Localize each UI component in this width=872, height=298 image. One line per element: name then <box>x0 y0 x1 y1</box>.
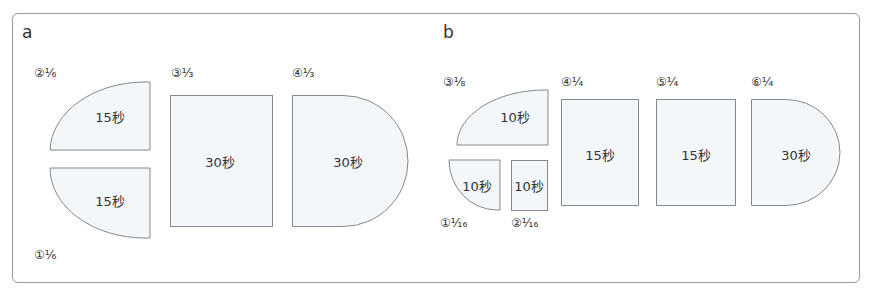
piece-b4-time: 15秒 <box>570 145 630 164</box>
piece-a4-time: 30秒 <box>318 152 378 171</box>
piece-b2-label: ②¹⁄₁₆ <box>511 216 538 230</box>
piece-b2-time: 10秒 <box>506 176 552 195</box>
piece-a3-label: ③¹⁄₃ <box>171 66 193 80</box>
panel-a-letter: a <box>22 22 32 42</box>
piece-b1-label: ①¹⁄₁₆ <box>440 216 467 230</box>
piece-b5-label: ⑤¹⁄₄ <box>656 75 678 89</box>
shapes-canvas <box>0 0 872 298</box>
piece-a1-label: ①¹⁄₆ <box>34 248 56 262</box>
piece-b6-label: ⑥¹⁄₄ <box>751 75 773 89</box>
piece-b6-time: 30秒 <box>766 145 826 164</box>
piece-b5-time: 15秒 <box>666 145 726 164</box>
piece-a2-label: ②¹⁄₆ <box>34 66 56 80</box>
piece-b3-time: 10秒 <box>485 107 545 126</box>
piece-a2-time: 15秒 <box>80 107 140 126</box>
piece-a4-label: ④¹⁄₃ <box>292 66 314 80</box>
piece-a3-time: 30秒 <box>190 152 250 171</box>
piece-b1-time: 10秒 <box>452 176 502 195</box>
piece-b4-label: ④¹⁄₄ <box>561 75 583 89</box>
piece-a1-time: 15秒 <box>80 191 140 210</box>
piece-b3-label: ③¹⁄₈ <box>443 75 465 89</box>
panel-b-letter: b <box>443 22 454 42</box>
